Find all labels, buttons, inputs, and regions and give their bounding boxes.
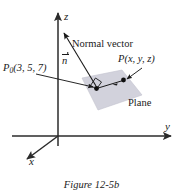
point-p-coords: (x, y, z) — [124, 53, 154, 64]
point-p0-label: P0(3, 5, 7) — [3, 63, 46, 74]
p-leader-line — [127, 68, 142, 79]
figure-caption: Figure 12-5b — [0, 179, 183, 190]
z-axis-label: z — [64, 11, 68, 22]
point-p0-coords: (3, 5, 7) — [13, 62, 46, 73]
x-axis-label: x — [29, 156, 34, 167]
plane-label: Plane — [128, 98, 151, 109]
y-axis-label: y — [165, 121, 170, 132]
point-p-label: P(x, y, z) — [118, 54, 155, 65]
p-leader — [127, 68, 142, 79]
figure-container: z y x Normal vector n P0(3, 5, 7) P(x, y… — [0, 0, 183, 195]
normal-vector-symbol: n — [62, 56, 67, 67]
normal-vector-symbol-text: n — [62, 56, 67, 67]
normal-vector-label: Normal vector — [72, 39, 133, 50]
point-p0-dot — [94, 86, 99, 91]
vector-plane-diagram — [0, 0, 183, 195]
point-p-dot — [121, 78, 126, 83]
